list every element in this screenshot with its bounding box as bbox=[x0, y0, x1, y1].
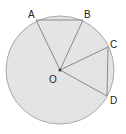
label-o: O bbox=[49, 74, 57, 85]
label-c: C bbox=[110, 39, 117, 50]
label-d: D bbox=[110, 95, 117, 106]
diagram-canvas: A B C D O bbox=[0, 0, 126, 134]
label-b: B bbox=[84, 9, 91, 20]
label-a: A bbox=[28, 9, 35, 20]
circle-diagram: A B C D O bbox=[0, 0, 126, 134]
center-point-o bbox=[58, 68, 61, 71]
